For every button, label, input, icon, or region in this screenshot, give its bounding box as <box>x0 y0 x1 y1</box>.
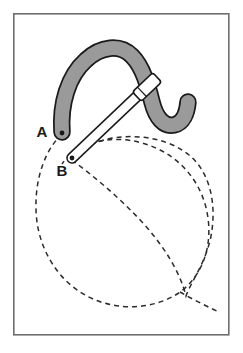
pivot-point-b[interactable] <box>70 156 75 161</box>
pivot-point-a[interactable] <box>60 131 65 136</box>
label-a: A <box>37 123 48 140</box>
figure-drawing: A B <box>0 0 243 353</box>
figure-root: A B <box>0 0 243 353</box>
label-b: B <box>57 162 68 179</box>
